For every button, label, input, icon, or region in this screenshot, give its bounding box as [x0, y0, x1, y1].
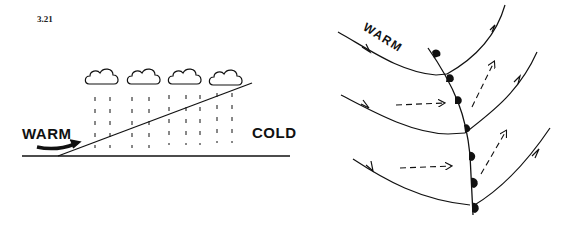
- cloud-icon: [85, 69, 118, 84]
- warm-label: WARM: [22, 125, 72, 142]
- cloud-icon: [127, 69, 160, 84]
- streamline-arrow-icon: [338, 32, 470, 205]
- cold-label: COLD: [252, 124, 297, 141]
- diagram-canvas: [0, 0, 574, 230]
- dashed-arrow-icon: [472, 62, 506, 174]
- streamline-arrow-icon: [447, 5, 550, 206]
- rain-streaks: [95, 93, 232, 148]
- cloud-icon: [168, 69, 201, 84]
- frontal-surface-line: [58, 83, 252, 156]
- streamline-arrow-icon: [361, 44, 373, 171]
- dashed-arrow-icon: [396, 103, 451, 168]
- streamline-arrow-icon: [490, 25, 539, 158]
- left-panel: [22, 69, 290, 156]
- cloud-icon: [209, 70, 242, 85]
